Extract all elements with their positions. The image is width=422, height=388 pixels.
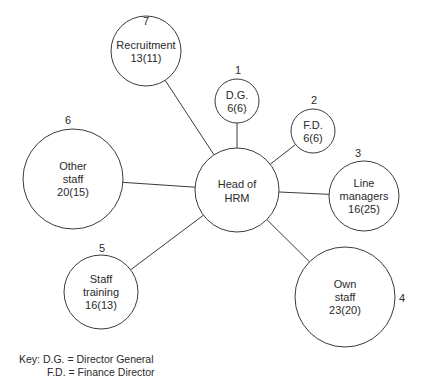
node-label-line2: managers [340, 190, 389, 202]
connector-line-7 [165, 80, 214, 155]
node-label-line1: Recruitment [116, 39, 175, 51]
node-number-label: 3 [355, 147, 361, 159]
node-number-label: 6 [65, 114, 71, 126]
key-meaning-dg: = Director General [67, 353, 153, 365]
key-abbr-dg: D.G. [43, 353, 65, 365]
center-label-line2: HRM [224, 192, 249, 204]
node-label-line3: 16(13) [85, 299, 117, 311]
node-staff-training: Stafftraining16(13)5 [64, 242, 138, 329]
key-title: Key: [19, 353, 40, 365]
node-other-staff: Otherstaff20(15)6 [23, 114, 123, 229]
key-abbr-fd: F.D. [47, 366, 66, 378]
center-label-line1: Head of [218, 178, 257, 190]
node-label-line1: Other [59, 160, 87, 172]
node-label-line1: D.G. [226, 89, 249, 101]
node-label-line2: staff [63, 173, 85, 185]
node-number-label: 7 [143, 15, 149, 27]
connector-line-5 [131, 215, 204, 270]
key-row-fd: F.D. = Finance Director [19, 366, 155, 379]
node-d-g: D.G.6(6)1 [215, 64, 259, 123]
legend-key: Key: D.G. = Director General F.D. = Fina… [19, 353, 155, 379]
key-meaning-fd: = Finance Director [69, 366, 155, 378]
node-recruitment: Recruitment13(11)7 [111, 15, 181, 86]
node-number-label: 2 [311, 94, 317, 106]
node-number-label: 5 [99, 242, 105, 254]
node-f-d: F.D.6(6)2 [291, 94, 335, 153]
node-label-line2: staff [335, 291, 357, 303]
node-label-line3: 23(20) [329, 304, 361, 316]
node-label-line2: 6(6) [227, 102, 247, 114]
node-label-line2: training [83, 286, 119, 298]
connector-line-4 [267, 220, 310, 262]
node-label-line3: 16(25) [348, 203, 380, 215]
node-label-line1: Own [334, 278, 357, 290]
connector-line-2 [270, 144, 295, 164]
center-node-head-of-hrm: Head of HRM [195, 148, 279, 232]
node-number-label: 4 [399, 292, 405, 304]
node-label-line1: Line [354, 177, 375, 189]
node-label-line1: Staff [90, 273, 113, 285]
connector-line-6 [123, 182, 195, 187]
node-label-line2: 6(6) [303, 132, 323, 144]
connector-line-3 [279, 192, 329, 194]
node-label-line2: 13(11) [131, 52, 162, 64]
hrm-network-diagram: D.G.6(6)1F.D.6(6)2Linemanagers16(25)3Own… [0, 0, 422, 388]
node-label-line3: 20(15) [57, 186, 89, 198]
node-label-line1: F.D. [303, 119, 323, 131]
key-row-dg: Key: D.G. = Director General [19, 353, 155, 366]
node-line-managers: Linemanagers16(25)3 [329, 147, 399, 231]
node-own-staff: Ownstaff23(20)4 [295, 247, 405, 347]
node-number-label: 1 [235, 64, 241, 76]
